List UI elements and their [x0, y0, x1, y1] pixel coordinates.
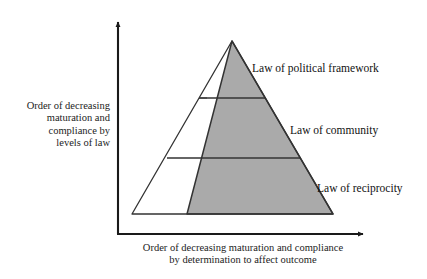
x-axis-label: Order of decreasing maturation and compl…	[104, 242, 382, 267]
tier-label-law-of-community: Law of community	[290, 124, 378, 137]
tier-label-law-of-political-framework: Law of political framework	[252, 62, 379, 75]
tier-label-law-of-reciprocity: Law of reciprocity	[317, 182, 403, 195]
y-axis-label: Order of decreasing maturation and compl…	[6, 100, 110, 150]
